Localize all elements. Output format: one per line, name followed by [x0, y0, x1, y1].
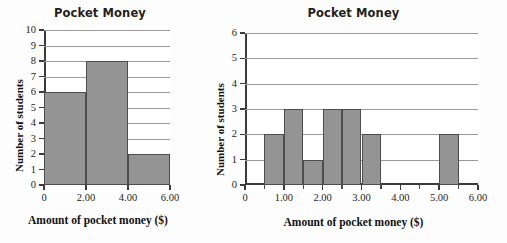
chart-right-bar [362, 134, 381, 185]
chart-left-y-axis-title: Number of students [13, 79, 25, 172]
chart-right-y-tick-label: 5 [232, 53, 237, 64]
chart-right-plot-area: 012345601.002.003.004.005.006.00 [245, 33, 478, 185]
chart-right-y-tick-mark [240, 159, 245, 160]
chart-right-title: Pocket Money [200, 6, 507, 20]
chart-left-bar [44, 92, 86, 185]
chart-left-y-tick-mark [39, 45, 44, 46]
chart-left-bar [128, 154, 170, 185]
chart-right-x-tick-label: 0 [242, 193, 247, 204]
chart-right-x-tick-label: 1.00 [275, 193, 293, 204]
chart-right-x-tick-label: 5.00 [430, 193, 448, 204]
chart-left-y-tick-label: 6 [31, 87, 36, 98]
chart-right-x-tick-label: 4.00 [391, 193, 409, 204]
chart-right-x-tick-label: 3.00 [352, 193, 370, 204]
chart-right-x-tick-mark [438, 185, 439, 190]
chart-left-y-tick-mark [39, 29, 44, 30]
chart-left-y-tick-label: 2 [31, 149, 36, 160]
chart-right-y-tick-mark [240, 134, 245, 135]
chart-right-x-tick-mark [283, 185, 284, 190]
chart-right-x-tick-label: 2.00 [313, 193, 331, 204]
chart-left-y-tick-mark [39, 60, 44, 61]
chart-right-bar [303, 160, 322, 185]
chart-right-x-tick-mark [361, 185, 362, 190]
chart-right-bar [342, 109, 361, 185]
chart-right-gridline [245, 58, 478, 59]
chart-right-x-axis-title: Amount of pocket money ($) [210, 216, 497, 228]
chart-left-pocket-money: Pocket Money 01234567891002.004.006.00 A… [0, 0, 200, 243]
chart-left-y-tick-label: 8 [31, 56, 36, 67]
chart-right-y-tick-label: 3 [232, 104, 237, 115]
chart-right-x-tick-minor [419, 185, 420, 189]
chart-right-y-tick-label: 1 [232, 154, 237, 165]
chart-right-y-tick-label: 0 [232, 180, 237, 191]
chart-left-y-tick-label: 0 [31, 180, 36, 191]
chart-right-pocket-money: Pocket Money 012345601.002.003.004.005.0… [200, 0, 507, 243]
chart-left-y-tick-label: 4 [31, 118, 36, 129]
chart-right-y-tick-mark [240, 32, 245, 33]
chart-right-y-tick-label: 6 [232, 28, 237, 39]
chart-left-y-tick-label: 7 [31, 71, 36, 82]
chart-left-x-tick-label: 2.00 [77, 193, 95, 204]
chart-right-x-tick-minor [341, 185, 342, 189]
chart-right-x-tick-label: 6.00 [469, 193, 487, 204]
chart-right-y-tick-mark [240, 58, 245, 59]
chart-right-bar [439, 134, 458, 185]
chart-left-x-axis-title: Amount of pocket money ($) [6, 214, 190, 226]
chart-left-y-tick-label: 1 [31, 164, 36, 175]
chart-right-y-tick-label: 2 [232, 129, 237, 140]
chart-left-gridline [44, 46, 170, 47]
chart-left-gridline [44, 30, 170, 31]
chart-left-x-tick-label: 6.00 [161, 193, 179, 204]
chart-right-x-tick-minor [458, 185, 459, 189]
chart-left-bar [86, 61, 128, 185]
chart-right-x-tick-minor [380, 185, 381, 189]
chart-right-gridline [245, 33, 478, 34]
chart-right-y-tick-label: 4 [232, 78, 237, 89]
chart-right-bar [323, 109, 342, 185]
chart-right-y-tick-mark [240, 108, 245, 109]
chart-left-y-tick-mark [39, 76, 44, 77]
chart-right-x-tick-mark [477, 185, 478, 190]
chart-left-y-tick-label: 5 [31, 102, 36, 113]
chart-right-gridline [245, 109, 478, 110]
chart-right-y-tick-mark [240, 83, 245, 84]
chart-left-x-tick-label: 4.00 [119, 193, 137, 204]
chart-right-x-tick-minor [303, 185, 304, 189]
chart-left-x-tick-mark [169, 185, 170, 190]
chart-right-bar [264, 134, 283, 185]
chart-right-bar [284, 109, 303, 185]
chart-right-x-tick-mark [322, 185, 323, 190]
chart-left-y-tick-label: 3 [31, 133, 36, 144]
chart-right-x-tick-minor [264, 185, 265, 189]
chart-left-plot-area: 01234567891002.004.006.00 [44, 30, 170, 185]
chart-right-x-tick-mark [400, 185, 401, 190]
chart-left-y-tick-label: 10 [26, 25, 37, 36]
chart-right-gridline [245, 84, 478, 85]
histogram-pair-figure: Pocket Money 01234567891002.004.006.00 A… [0, 0, 507, 243]
chart-left-x-tick-label: 0 [41, 193, 46, 204]
chart-right-x-tick-mark [244, 185, 245, 190]
chart-left-y-tick-label: 9 [31, 40, 36, 51]
chart-right-y-axis-title: Number of students [214, 83, 226, 176]
chart-left-title: Pocket Money [0, 6, 200, 20]
chart-left-x-tick-mark [43, 185, 44, 190]
chart-left-x-tick-mark [127, 185, 128, 190]
chart-left-x-tick-mark [85, 185, 86, 190]
